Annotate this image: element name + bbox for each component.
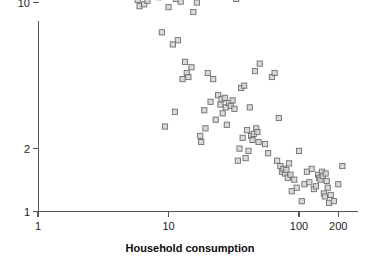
data-point bbox=[307, 180, 312, 185]
data-point bbox=[194, 0, 199, 5]
data-point bbox=[302, 182, 307, 187]
data-point bbox=[159, 30, 164, 35]
scatter-plot-figure: 121050 110100200 Household consumption bbox=[0, 0, 376, 267]
data-point bbox=[213, 117, 218, 122]
data-point bbox=[275, 158, 280, 163]
data-point bbox=[202, 108, 207, 113]
x-axis-title: Household consumption bbox=[126, 242, 255, 254]
data-point bbox=[162, 124, 167, 129]
data-point bbox=[180, 77, 185, 82]
data-point bbox=[170, 42, 175, 47]
data-point bbox=[292, 177, 297, 182]
data-point bbox=[324, 178, 329, 183]
data-point bbox=[323, 171, 328, 176]
data-point bbox=[182, 59, 187, 64]
data-point bbox=[325, 185, 330, 190]
data-point bbox=[272, 70, 277, 75]
data-point bbox=[235, 158, 240, 163]
data-point bbox=[186, 74, 191, 79]
data-point bbox=[224, 122, 229, 127]
data-point bbox=[175, 38, 180, 43]
y-tick-label: 1 bbox=[24, 206, 30, 218]
data-point bbox=[244, 128, 249, 133]
data-point bbox=[234, 0, 239, 2]
data-point bbox=[218, 102, 223, 107]
data-point bbox=[296, 148, 301, 153]
data-point bbox=[189, 65, 194, 70]
data-point bbox=[178, 0, 183, 4]
x-axis-ticks: 110100200 bbox=[35, 212, 348, 233]
data-point bbox=[230, 98, 235, 103]
data-point bbox=[276, 115, 281, 120]
data-point bbox=[145, 0, 150, 3]
data-point bbox=[328, 192, 333, 197]
data-point bbox=[220, 111, 225, 116]
data-point bbox=[294, 185, 299, 190]
data-point bbox=[263, 142, 268, 147]
data-point-group bbox=[37, 0, 345, 205]
data-point bbox=[203, 126, 208, 131]
x-tick-label: 100 bbox=[290, 220, 308, 232]
data-point bbox=[331, 199, 336, 204]
x-tick-label: 1 bbox=[35, 220, 41, 232]
data-point bbox=[287, 161, 292, 166]
data-point bbox=[232, 106, 237, 111]
data-point bbox=[166, 5, 171, 10]
data-point bbox=[243, 156, 248, 161]
data-point bbox=[288, 172, 293, 177]
data-point bbox=[252, 68, 257, 73]
data-point bbox=[242, 83, 247, 88]
data-point bbox=[240, 135, 245, 140]
y-tick-label: 10 bbox=[18, 0, 30, 9]
data-point bbox=[208, 99, 213, 104]
data-point bbox=[211, 77, 216, 82]
data-point bbox=[247, 105, 252, 110]
data-point bbox=[135, 0, 140, 2]
data-point bbox=[172, 109, 177, 114]
data-point bbox=[309, 166, 314, 171]
data-point bbox=[289, 189, 294, 194]
data-point bbox=[191, 9, 196, 14]
data-point bbox=[340, 163, 345, 168]
x-tick-label: 10 bbox=[162, 220, 174, 232]
y-tick-label: 2 bbox=[24, 143, 30, 155]
y-axis-ticks: 121050 bbox=[18, 0, 39, 218]
data-point bbox=[198, 133, 203, 138]
data-point bbox=[250, 137, 255, 142]
data-point bbox=[205, 70, 210, 75]
data-point bbox=[266, 151, 271, 156]
data-point bbox=[255, 129, 260, 134]
data-point bbox=[336, 182, 341, 187]
data-point bbox=[313, 184, 318, 189]
data-point bbox=[222, 95, 227, 100]
data-point bbox=[299, 199, 304, 204]
data-point bbox=[322, 194, 327, 199]
data-point bbox=[237, 146, 242, 151]
data-point bbox=[257, 61, 262, 66]
x-tick-label: 200 bbox=[329, 220, 347, 232]
plot-canvas: 121050 110100200 Household consumption bbox=[0, 0, 376, 267]
data-point bbox=[199, 139, 204, 144]
data-point bbox=[256, 139, 261, 144]
data-point bbox=[246, 148, 251, 153]
